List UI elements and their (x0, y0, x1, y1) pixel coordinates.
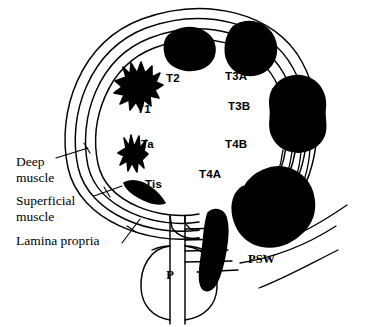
label-superficial-muscle-line2: muscle (16, 209, 54, 224)
tumor-t3b (270, 76, 326, 152)
label-t3b: T3B (228, 100, 250, 112)
tumor-t3a (225, 22, 276, 76)
tick-deep-muscle (84, 143, 90, 153)
tumor-t4b (232, 167, 314, 247)
label-deep-muscle-line2: muscle (16, 170, 54, 185)
label-prostate: P (166, 268, 174, 282)
label-psw: PSW (248, 252, 276, 266)
label-t2: T2 (166, 72, 180, 84)
tumor-t4a-shape (199, 210, 227, 291)
label-ta: Ta (141, 138, 154, 150)
tumor-t2-shape (164, 28, 215, 71)
tumor-t2 (164, 28, 215, 71)
figure-canvas: Deep muscle Superficial muscle Lamina pr… (0, 0, 375, 327)
label-t4a: T4A (199, 168, 221, 180)
leader-lamina-propria (122, 219, 140, 243)
tumor-t3a-shape (225, 22, 276, 76)
bladder-staging-diagram: Deep muscle Superficial muscle Lamina pr… (0, 0, 375, 327)
label-superficial-muscle-line1: Superficial (16, 193, 75, 208)
label-lamina-propria: Lamina propria (16, 233, 100, 248)
label-t1: T1 (137, 103, 151, 115)
label-t4b: T4B (225, 138, 247, 150)
tumor-t3b-shape (270, 76, 326, 152)
leader-deep-muscle (56, 148, 88, 158)
tumor-t4b-shape (232, 167, 314, 247)
label-deep-muscle-line1: Deep (16, 154, 45, 169)
prostate-left-lobe (141, 246, 170, 320)
label-tis: Tis (145, 178, 162, 190)
urethra-and-neck (170, 216, 199, 324)
label-t3a: T3A (225, 70, 247, 82)
tumor-t4a (199, 210, 227, 291)
anatomy-label-group: Deep muscle Superficial muscle Lamina pr… (16, 154, 100, 248)
